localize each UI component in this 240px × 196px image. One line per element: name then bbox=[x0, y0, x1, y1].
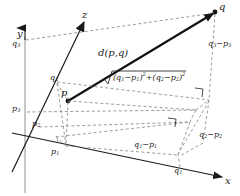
projection-dashed-lines bbox=[26, 13, 215, 167]
point-label-q: q bbox=[219, 2, 225, 12]
tick-label-p3-y-axis: p3 bbox=[12, 105, 20, 113]
tick-label-p1-x-axis: p1 bbox=[51, 148, 59, 156]
tick-label-p2-z-axis: p2 bbox=[32, 120, 40, 128]
distance-vector-pq bbox=[68, 13, 214, 101]
axis-label-y: y bbox=[17, 29, 23, 39]
tick-label-q3-y-axis: q3 bbox=[12, 40, 20, 48]
radicand-expression: (q1−p1)2+(q2−p2)2 bbox=[113, 72, 185, 82]
axis-label-x: x bbox=[225, 176, 231, 186]
delta-label-q2-minus-p2: q2−p2 bbox=[199, 131, 222, 139]
point-q-dot bbox=[213, 10, 218, 15]
figure-canvas: y x z p q q3 p3 q2 p2 p1 q1 d(p,q) q1−p1… bbox=[0, 0, 240, 196]
tick-label-q2-z-axis: q2 bbox=[50, 74, 58, 82]
point-label-p: p bbox=[61, 88, 67, 98]
tick-label-q1-x-axis: q1 bbox=[174, 167, 182, 175]
distance-label-dpq: d(p,q) bbox=[98, 48, 128, 58]
diagram-vector-layer bbox=[0, 0, 240, 196]
delta-label-q3-minus-p3: q3−p3 bbox=[208, 40, 231, 48]
axis-x bbox=[12, 133, 222, 177]
delta-label-q1-minus-p1: q1−p1 bbox=[134, 141, 157, 149]
right-angle-marker-upper bbox=[195, 88, 203, 97]
axis-label-z: z bbox=[82, 10, 87, 20]
